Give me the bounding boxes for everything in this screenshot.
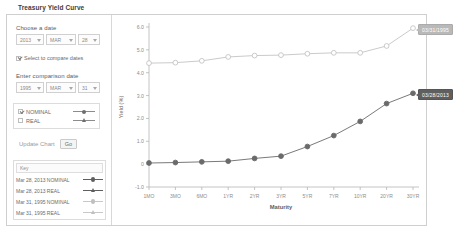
date-day-select[interactable]: 28 [78, 34, 100, 45]
legend-marker-triangle-icon [83, 208, 103, 217]
svg-text:Maturity: Maturity [270, 204, 293, 210]
svg-text:6.0: 6.0 [137, 24, 144, 30]
series-option-nominal[interactable]: NOMINAL [18, 107, 95, 116]
svg-text:6MO: 6MO [196, 193, 207, 199]
controls-panel: Choose a date 2013 MAR 28 [7, 15, 112, 225]
compare-dates-group: Select to compare dates [16, 55, 83, 61]
chevron-down-icon [93, 87, 97, 90]
svg-text:3YR: 3YR [276, 193, 286, 199]
series-option-nominal-label: NOMINAL [26, 109, 51, 115]
compare-dates-checkbox[interactable]: Select to compare dates [16, 55, 83, 61]
go-button[interactable]: Go [60, 139, 77, 149]
series-nominal-swatch [73, 108, 95, 116]
tooltip-lower[interactable]: 03/28/2013 [418, 89, 453, 100]
svg-text:1MO: 1MO [144, 193, 155, 199]
comparison-year-select[interactable]: 1995 [16, 82, 44, 93]
main-frame: Choose a date 2013 MAR 28 [6, 14, 427, 226]
checkbox-icon [18, 109, 23, 114]
legend-item-label: Mar 28, 2013 REAL [16, 188, 60, 194]
date-year-select[interactable]: 2013 [16, 34, 44, 45]
date-month-value: MAR [50, 37, 61, 43]
svg-text:-1.0: -1.0 [135, 184, 144, 190]
svg-text:3MO: 3MO [170, 193, 181, 199]
svg-text:1.0: 1.0 [137, 138, 144, 144]
svg-text:5YR: 5YR [303, 193, 313, 199]
comparison-selects-row: 1995 MAR 31 [16, 82, 100, 93]
comparison-day-select[interactable]: 31 [78, 82, 100, 93]
comparison-month-select[interactable]: MAR [46, 82, 76, 93]
chart-panel: 6.05.04.03.02.01.00-1.0Yield (%)1MO3MO6M… [113, 15, 427, 225]
checkbox-icon [18, 118, 23, 123]
svg-text:4.0: 4.0 [137, 70, 144, 76]
comparison-month-value: MAR [50, 85, 61, 91]
choose-date-group: Choose a date 2013 MAR 28 [16, 25, 100, 45]
svg-text:1YR: 1YR [223, 193, 233, 199]
legend-item: Mar 31, 1995 REAL [16, 207, 103, 218]
page-title: Treasury Yield Curve [18, 4, 84, 11]
date-year-value: 2013 [20, 37, 31, 43]
svg-text:20YR: 20YR [380, 193, 393, 199]
series-options-box: NOMINAL REAL [13, 103, 100, 129]
chevron-down-icon [93, 39, 97, 42]
legend-key-label: Key [16, 163, 103, 173]
series-option-real-label: REAL [26, 118, 40, 124]
chevron-down-icon [69, 39, 73, 42]
legend-item-label: Mar 28, 2013 NOMINAL [16, 177, 70, 183]
legend: Key Mar 28, 2013 NOMINAL Mar 28, 2013 RE… [13, 160, 106, 220]
comparison-date-label: Enter comparison date [16, 73, 100, 79]
legend-item: Mar 31, 1995 NOMINAL [16, 196, 103, 207]
legend-marker-triangle-icon [83, 186, 103, 195]
date-month-select[interactable]: MAR [46, 34, 76, 45]
series-real-swatch [73, 117, 95, 125]
yield-curve-chart: 6.05.04.03.02.01.00-1.0Yield (%)1MO3MO6M… [113, 15, 427, 225]
svg-text:5.0: 5.0 [137, 47, 144, 53]
svg-text:2.0: 2.0 [137, 115, 144, 121]
svg-text:2YR: 2YR [250, 193, 260, 199]
legend-marker-circle-icon [83, 197, 103, 206]
legend-item-label: Mar 31, 1995 NOMINAL [16, 199, 70, 205]
update-chart-row: Update Chart Go [19, 139, 77, 149]
date-selects-row: 2013 MAR 28 [16, 34, 100, 45]
svg-text:30YR: 30YR [407, 193, 420, 199]
legend-item: Mar 28, 2013 NOMINAL [16, 174, 103, 185]
checkbox-icon [16, 56, 21, 61]
chevron-down-icon [37, 87, 41, 90]
legend-marker-circle-icon [83, 175, 103, 184]
comparison-year-value: 1995 [20, 85, 31, 91]
tooltip-upper[interactable]: 03/31/1995 [418, 24, 453, 35]
legend-item-label: Mar 31, 1995 REAL [16, 210, 60, 216]
legend-item: Mar 28, 2013 REAL [16, 185, 103, 196]
svg-text:0: 0 [141, 161, 144, 167]
choose-date-label: Choose a date [16, 25, 100, 31]
comparison-day-value: 31 [82, 85, 88, 91]
comparison-date-group: Enter comparison date 1995 MAR 31 [16, 73, 100, 93]
compare-dates-label: Select to compare dates [24, 55, 83, 61]
chevron-down-icon [69, 87, 73, 90]
update-chart-label: Update Chart [19, 141, 55, 147]
date-day-value: 28 [82, 37, 88, 43]
series-option-real[interactable]: REAL [18, 116, 95, 125]
svg-text:Yield (%): Yield (%) [118, 96, 124, 119]
svg-text:3.0: 3.0 [137, 93, 144, 99]
chevron-down-icon [37, 39, 41, 42]
svg-text:7YR: 7YR [329, 193, 339, 199]
svg-text:10YR: 10YR [354, 193, 367, 199]
